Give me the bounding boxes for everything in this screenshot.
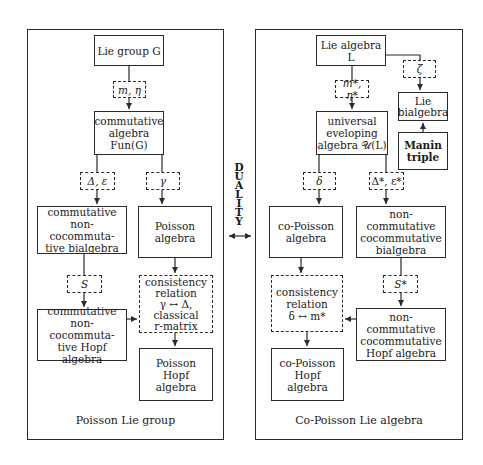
noncommutative-hopf-box: non-commutative cocommutative Hopf algeb… [356,308,446,361]
co-poisson-algebra-box: co-Poisson algebra [269,206,343,258]
commutative-algebra-label: commutative algebra Fun(G) [94,115,163,151]
poisson-hopf-box: Poisson Hopf algebra [139,348,213,401]
poisson-algebra-label: Poisson algebra [155,220,196,244]
gamma-op: γ [146,172,180,190]
manin-triple-label: Manin triple [404,139,442,163]
co-poisson-algebra-label: co-Poisson algebra [278,220,334,244]
zeta-op: ζ [403,60,436,78]
co-poisson-hopf-box: co-Poisson Hopf algebra [271,348,344,401]
lie-algebra-label: Lie algebra L [317,39,385,63]
consistency-relation-delta-box: consistency relation δ ↔ m* [271,275,343,332]
lie-algebra-box: Lie algebra L [316,35,386,66]
s-op: S [67,275,102,293]
delta-eps-op: Δ, ε [80,172,115,190]
co-poisson-hopf-label: co-Poisson Hopf algebra [280,357,336,393]
m-eta-star-op: m*, η* [335,80,369,98]
poisson-lie-group-caption: Poisson Lie group [27,414,224,427]
manin-triple-box: Manin triple [398,132,448,170]
noncommutative-hopf-label: non-commutative cocommutative Hopf algeb… [357,311,445,359]
consistency-relation-gamma-box: consistency relation γ ↔ Δ, classical r-… [139,275,213,333]
delta-eps-star-op: Δ*, ε* [369,172,404,190]
commutative-hopf-box: commutative non-cocommuta- tive Hopf alg… [37,309,127,361]
lie-bialgebra-box: Lie bialgebra [398,92,448,121]
duality-label: D U A L I T Y [232,163,246,226]
co-poisson-lie-algebra-caption: Co-Poisson Lie algebra [255,414,463,427]
noncommutative-bialgebra-label: non-commutative cocommutative bialgebra [357,208,445,256]
lie-group-label: Lie group G [97,45,160,57]
commutative-bialgebra-box: commutative non-cocommuta- tive bialgebr… [37,206,127,254]
s-star-op: S* [383,275,418,293]
commutative-algebra-box: commutative algebra Fun(G) [94,111,164,155]
poisson-hopf-label: Poisson Hopf algebra [156,357,197,393]
poisson-algebra-box: Poisson algebra [138,206,212,258]
delta-op: δ [303,172,336,190]
commutative-hopf-label: commutative non-cocommuta- tive Hopf alg… [38,305,126,365]
universal-enveloping-algebra-box: universal eveloping algebra 𝒰(L) [316,111,388,155]
noncommutative-bialgebra-box: non-commutative cocommutative bialgebra [356,206,446,258]
lie-group-box: Lie group G [94,35,164,66]
m-eta-op: m, η [113,81,146,98]
lie-bialgebra-label: Lie bialgebra [398,96,449,118]
commutative-bialgebra-label: commutative non-cocommuta- tive bialgebr… [38,206,126,254]
universal-enveloping-algebra-label: universal eveloping algebra 𝒰(L) [317,115,386,151]
